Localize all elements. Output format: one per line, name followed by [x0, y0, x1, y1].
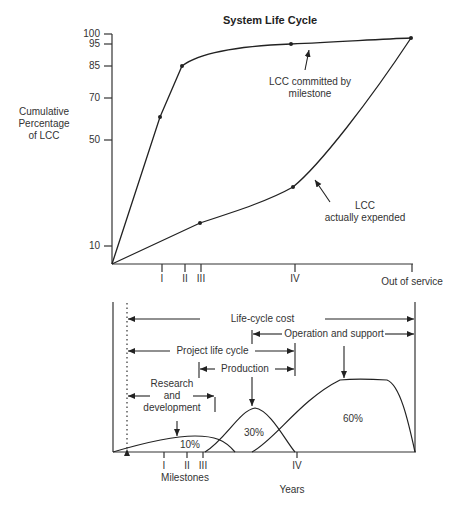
y-tick-10: 10 — [72, 240, 100, 252]
x-tick-I: I — [152, 273, 172, 285]
span-operation-support: Operation and support — [283, 328, 385, 340]
expended-annotation-2: actually expended — [315, 212, 415, 224]
span-life-cycle-cost: Life-cycle cost — [200, 313, 325, 325]
span-rd-3: development — [136, 402, 208, 414]
pct-rd: 10% — [170, 439, 210, 451]
expended-arrow — [315, 180, 330, 202]
expended-annotation-1: LCC — [315, 200, 415, 212]
milestone-IV: IV — [287, 460, 307, 472]
y-axis-label-2: Percentage — [14, 118, 74, 130]
x-tick-IV: IV — [285, 273, 305, 285]
committed-annotation-2: milestone — [255, 88, 365, 100]
y-tick-95: 95 — [72, 38, 100, 50]
lcc-committed-curve — [112, 38, 411, 264]
span-rd-2: and — [136, 390, 208, 402]
x-tick-III: III — [191, 273, 211, 285]
pct-operation: 60% — [333, 413, 373, 425]
milestone-I: I — [154, 460, 174, 472]
x-end-label: Out of service — [372, 276, 452, 288]
pct-production: 30% — [234, 427, 274, 439]
life-cycle-diagram — [0, 0, 461, 509]
y-axis-label-1: Cumulative — [14, 106, 74, 118]
y-tick-70: 70 — [72, 92, 100, 104]
y-tick-85: 85 — [72, 60, 100, 72]
committed-annotation-1: LCC committed by — [255, 76, 365, 88]
y-tick-50: 50 — [72, 134, 100, 146]
y-axis-label-3: of LCC — [14, 130, 74, 142]
chart-title: System Life Cycle — [210, 14, 330, 26]
top-chart-axes — [104, 34, 413, 272]
x-axis-label-years: Years — [262, 484, 322, 496]
milestone-III: III — [193, 460, 213, 472]
span-rd-1: Research — [136, 378, 208, 390]
span-production: Production — [215, 363, 275, 375]
lcc-expended-curve — [112, 38, 411, 264]
committed-arrow — [305, 50, 309, 70]
data-points — [158, 36, 413, 225]
span-project-life-cycle: Project life cycle — [170, 345, 255, 357]
milestones-label: Milestones — [150, 472, 220, 484]
